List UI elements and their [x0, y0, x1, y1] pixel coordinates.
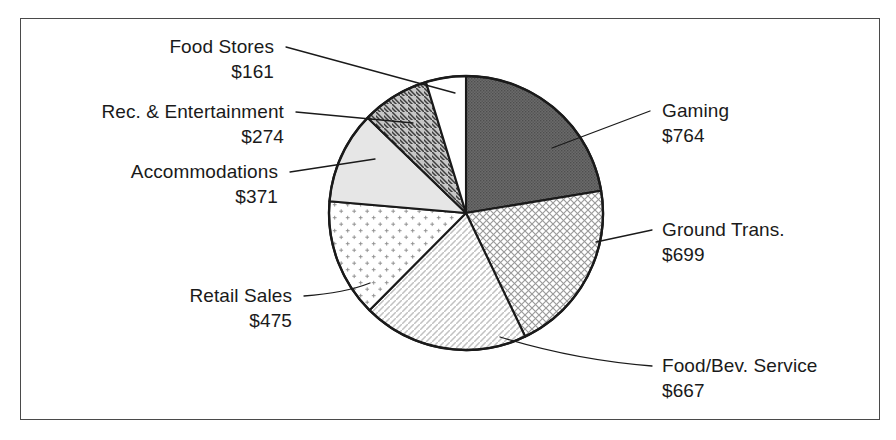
- leader-line-food-bev-service: [500, 337, 652, 366]
- label-food-bev-service-name: Food/Bev. Service: [662, 353, 818, 378]
- label-ground-trans-value: $699: [662, 242, 785, 267]
- label-accommodations-name: Accommodations: [131, 159, 278, 184]
- label-gaming-value: $764: [662, 123, 729, 148]
- label-accommodations: Accommodations $371: [131, 159, 278, 209]
- label-food-bev-service: Food/Bev. Service $667: [662, 353, 818, 403]
- leader-line-ground-trans: [596, 230, 652, 242]
- pie-slices-group: [329, 76, 603, 350]
- label-ground-trans: Ground Trans. $699: [662, 217, 785, 267]
- leader-line-food-stores: [286, 47, 455, 93]
- label-food-stores: Food Stores $161: [169, 34, 274, 84]
- pie-chart-figure: Food Stores $161 Rec. & Entertainment $2…: [0, 0, 896, 440]
- label-gaming-name: Gaming: [662, 98, 729, 123]
- label-retail-sales-value: $475: [189, 308, 292, 333]
- label-food-stores-name: Food Stores: [169, 34, 274, 59]
- label-retail-sales: Retail Sales $475: [189, 283, 292, 333]
- label-ground-trans-name: Ground Trans.: [662, 217, 785, 242]
- label-rec-entertainment: Rec. & Entertainment $274: [101, 99, 284, 149]
- label-food-stores-value: $161: [169, 59, 274, 84]
- label-gaming: Gaming $764: [662, 98, 729, 148]
- label-retail-sales-name: Retail Sales: [189, 283, 292, 308]
- label-rec-entertainment-value: $274: [101, 124, 284, 149]
- label-food-bev-service-value: $667: [662, 378, 818, 403]
- label-accommodations-value: $371: [131, 184, 278, 209]
- label-rec-entertainment-name: Rec. & Entertainment: [101, 99, 284, 124]
- pie-slice-gaming: [466, 76, 601, 213]
